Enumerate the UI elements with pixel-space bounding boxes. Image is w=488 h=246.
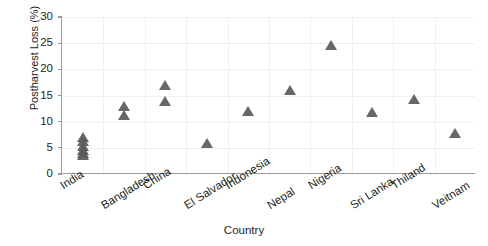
data-point-marker [159, 96, 171, 106]
data-point-marker [366, 107, 378, 117]
y-axis-tick-mark [58, 69, 62, 70]
x-axis-category-label: Veitnam [430, 179, 472, 211]
data-point-marker [159, 80, 171, 90]
y-axis-tick-mark [58, 173, 62, 174]
gridline-vertical [103, 17, 104, 173]
data-point-marker [449, 128, 461, 138]
plot-area [61, 17, 475, 174]
gridline-vertical [435, 17, 436, 173]
x-axis-title: Country [0, 224, 488, 237]
y-axis-tick-mark [58, 121, 62, 122]
y-axis-tick-mark [58, 147, 62, 148]
scatter-chart: Postharvest Loss (%) 051015202530 IndiaB… [0, 0, 488, 246]
gridline-vertical [310, 17, 311, 173]
gridline-vertical [352, 17, 353, 173]
y-axis-tick-label: 5 [47, 142, 53, 154]
gridline-vertical [145, 17, 146, 173]
x-axis-category-label: Nepal [265, 185, 297, 211]
y-axis-tick-mark [58, 95, 62, 96]
y-axis-tick-label: 30 [40, 11, 53, 23]
data-point-marker [284, 85, 296, 95]
data-point-marker [408, 94, 420, 104]
y-axis-tick-label: 20 [40, 63, 53, 75]
y-axis-tick-label: 10 [40, 116, 53, 128]
gridline-vertical [269, 17, 270, 173]
y-axis-tick-labels: 051015202530 [0, 0, 58, 246]
y-axis-tick-mark [58, 43, 62, 44]
plot-inner [62, 17, 475, 173]
gridline-vertical [393, 17, 394, 173]
gridline-vertical [186, 17, 187, 173]
data-point-marker [201, 138, 213, 148]
data-point-marker [118, 110, 130, 120]
data-point-marker [77, 150, 89, 160]
data-point-marker [325, 40, 337, 50]
gridline-vertical [228, 17, 229, 173]
data-point-marker [242, 106, 254, 116]
y-axis-tick-label: 15 [40, 90, 53, 102]
y-axis-tick-label: 0 [47, 168, 53, 180]
y-axis-tick-label: 25 [40, 37, 53, 49]
y-axis-tick-mark [58, 16, 62, 17]
